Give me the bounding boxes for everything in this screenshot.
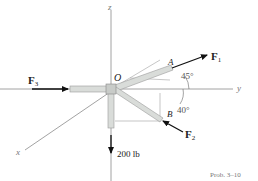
f1-subscript: 1 <box>218 56 222 64</box>
problem-caption: Prob. 3–10 <box>210 172 241 179</box>
f3-symbol: F <box>28 74 35 86</box>
x-axis <box>25 90 113 150</box>
z-axis-label: z <box>108 3 112 12</box>
angle-arc-40 <box>180 89 183 104</box>
f3-label: F3 <box>28 75 38 88</box>
y-axis-label: y <box>237 84 241 93</box>
f2-arrow <box>163 121 183 132</box>
point-b-label: B <box>167 110 173 119</box>
angle-40-label: 40° <box>177 106 190 115</box>
pipe-assembly <box>70 65 173 128</box>
statics-diagram: z y x O A B F1 F2 F3 45° 40° 200 lb Prob… <box>0 0 258 181</box>
f3-subscript: 3 <box>35 80 39 88</box>
f2-symbol: F <box>185 128 192 140</box>
f2-label: F2 <box>185 129 195 142</box>
point-a-label: A <box>168 58 174 67</box>
f1-symbol: F <box>211 50 218 62</box>
weight-label: 200 lb <box>117 150 140 159</box>
x-axis-label: x <box>16 148 20 157</box>
origin-label: O <box>114 73 121 83</box>
f1-arrow <box>172 55 207 68</box>
f2-subscript: 2 <box>192 134 196 142</box>
angle-45-label: 45° <box>181 72 194 81</box>
f1-label: F1 <box>211 51 221 64</box>
